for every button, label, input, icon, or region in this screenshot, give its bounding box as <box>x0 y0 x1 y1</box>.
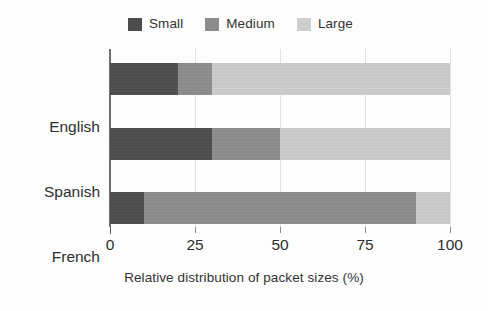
x-axis-tick-label: 100 <box>437 236 463 254</box>
bar-segment[interactable] <box>212 128 280 160</box>
x-axis-tickmark <box>450 227 451 233</box>
legend-swatch-large-icon <box>297 18 311 31</box>
scan-grain-texture <box>144 192 416 224</box>
scan-grain-texture <box>110 192 144 224</box>
y-axis-tick-label: English <box>49 119 100 135</box>
y-axis-tick-label: Spanish <box>44 184 100 200</box>
bar-row <box>110 128 450 160</box>
bar-segment[interactable] <box>110 128 212 160</box>
bar-row <box>110 63 450 95</box>
gridline <box>450 49 451 227</box>
scan-grain-texture <box>178 63 212 95</box>
bar-segment[interactable] <box>110 63 178 95</box>
legend-swatch-small-icon <box>128 18 142 31</box>
scan-grain-texture <box>212 128 280 160</box>
legend-label-large: Large <box>318 17 353 31</box>
x-axis-tickmark <box>280 227 281 233</box>
plot-area <box>110 49 450 227</box>
bar-segment[interactable] <box>212 63 450 95</box>
legend-swatch-medium-icon <box>205 18 219 31</box>
bar-segment[interactable] <box>416 192 450 224</box>
legend-entry-medium[interactable]: Medium <box>205 17 275 31</box>
x-axis-tick-label: 0 <box>106 236 115 254</box>
x-axis-tickmark <box>365 227 366 233</box>
scan-grain-texture <box>280 128 450 160</box>
chart-legend: Small Medium Large <box>128 14 408 34</box>
scan-grain-texture <box>416 192 450 224</box>
x-axis-tick-labels: 0255075100 <box>0 236 488 258</box>
x-axis-tick-label: 50 <box>271 236 288 254</box>
x-axis-tick-label: 25 <box>186 236 203 254</box>
legend-entry-small[interactable]: Small <box>128 17 183 31</box>
x-axis-title: Relative distribution of packet sizes (%… <box>0 270 488 286</box>
scan-grain-texture <box>212 63 450 95</box>
y-axis-tick-labels: English Spanish French <box>0 49 100 227</box>
legend-entry-large[interactable]: Large <box>297 17 353 31</box>
x-axis-tickmark <box>110 227 111 234</box>
legend-label-small: Small <box>149 17 183 31</box>
legend-label-medium: Medium <box>226 17 275 31</box>
bar-segment[interactable] <box>280 128 450 160</box>
bar-segment[interactable] <box>144 192 416 224</box>
scan-grain-texture <box>110 128 212 160</box>
x-axis-tickmark <box>195 227 196 233</box>
scan-grain-texture <box>110 63 178 95</box>
x-axis-tick-label: 75 <box>356 236 373 254</box>
bar-row <box>110 192 450 224</box>
chart-figure: Small Medium Large English Spanish Frenc… <box>0 0 488 311</box>
bar-segment[interactable] <box>178 63 212 95</box>
bar-segment[interactable] <box>110 192 144 224</box>
